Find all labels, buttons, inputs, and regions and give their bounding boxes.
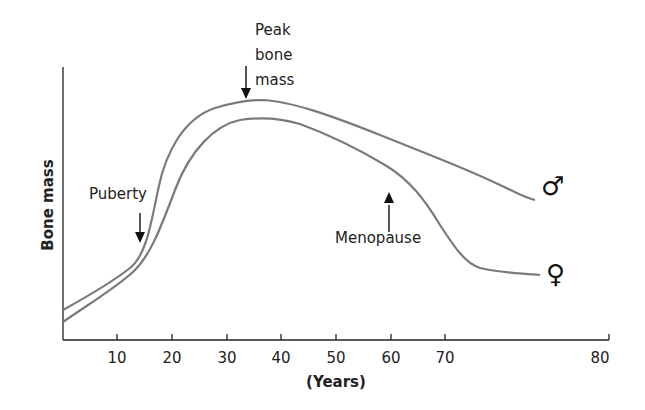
x-tick-label: 80 <box>590 349 609 367</box>
x-tick-label: 10 <box>107 349 126 367</box>
x-tick-label: 40 <box>271 349 290 367</box>
male-curve <box>63 100 535 310</box>
female-curve <box>63 118 540 322</box>
x-tick-label: 30 <box>217 349 236 367</box>
x-tick-label: 20 <box>162 349 181 367</box>
puberty-arrow <box>135 213 145 243</box>
x-tick-label: 70 <box>435 349 454 367</box>
x-tick-label: 60 <box>381 349 400 367</box>
menopause-label: Menopause <box>335 229 421 247</box>
menopause-arrow <box>384 192 394 232</box>
x-axis-label: (Years) <box>306 373 366 391</box>
x-ticks <box>117 334 609 340</box>
male-symbol-icon: ♂ <box>541 173 564 199</box>
peak-label-line2: bone <box>255 46 292 64</box>
x-tick-label: 50 <box>326 349 345 367</box>
peak-label-line1: Peak <box>255 21 291 39</box>
y-axis-label: Bone mass <box>39 155 57 255</box>
bone-mass-chart <box>0 0 645 410</box>
peak-bone-mass-arrow <box>241 66 251 99</box>
female-symbol-icon: ♀ <box>546 261 565 287</box>
peak-label-line3: mass <box>255 71 294 89</box>
puberty-label: Puberty <box>89 185 147 203</box>
